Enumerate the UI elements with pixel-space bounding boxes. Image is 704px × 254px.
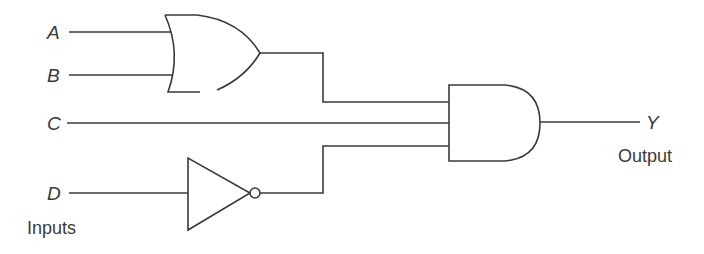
and-gate-icon	[449, 85, 540, 161]
wire-not-to-and	[260, 146, 449, 193]
output-label-y: Y	[646, 113, 659, 132]
or-gate-icon	[165, 15, 260, 92]
inputs-caption: Inputs	[27, 219, 76, 237]
input-label-a: A	[47, 23, 60, 42]
input-label-b: B	[47, 66, 60, 85]
logic-circuit-diagram	[0, 0, 704, 254]
wire-or-to-and	[260, 53, 449, 102]
not-bubble-icon	[250, 188, 260, 198]
not-gate-icon	[188, 158, 250, 230]
output-caption: Output	[618, 147, 672, 165]
input-label-d: D	[47, 184, 61, 203]
input-label-c: C	[47, 114, 61, 133]
